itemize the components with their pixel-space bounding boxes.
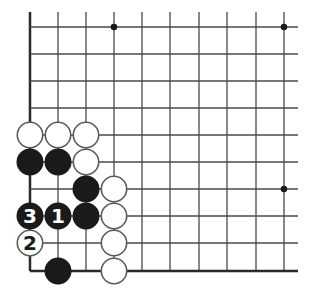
move-number: 1 (51, 204, 65, 228)
white-stone-2: 2 (17, 230, 42, 255)
white-stone (101, 258, 126, 283)
black-stone (45, 258, 72, 285)
white-stone (73, 149, 98, 174)
white-stone (17, 122, 42, 147)
white-stone (73, 122, 98, 147)
black-stone (17, 149, 44, 176)
star-point (281, 186, 288, 193)
black-stone (73, 176, 100, 203)
white-stone (101, 176, 126, 201)
grid-lines (30, 12, 298, 271)
go-board: 312 (0, 0, 314, 300)
stones: 312 (17, 122, 127, 284)
move-number: 3 (23, 204, 37, 228)
star-point (281, 24, 288, 31)
white-stone (101, 203, 126, 228)
move-number: 2 (23, 231, 37, 255)
star-point (111, 24, 118, 31)
white-stone (45, 122, 70, 147)
black-stone (45, 149, 72, 176)
black-stone (73, 203, 100, 230)
black-stone-3: 3 (17, 203, 44, 230)
black-stone-1: 1 (45, 203, 72, 230)
white-stone (101, 230, 126, 255)
